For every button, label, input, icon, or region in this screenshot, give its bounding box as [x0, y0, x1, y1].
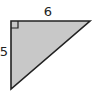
- triangle-diagram: 6 5: [0, 0, 94, 91]
- top-side-label: 6: [44, 4, 52, 19]
- right-triangle: [11, 21, 90, 89]
- left-side-label: 5: [0, 44, 8, 59]
